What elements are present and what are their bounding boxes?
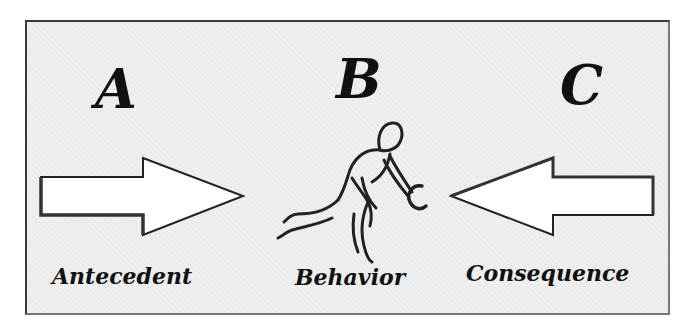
caption-antecedent: Antecedent [52, 265, 192, 287]
caption-consequence: Consequence [466, 262, 629, 284]
arrow-right-icon [38, 155, 268, 245]
letter-b: B [336, 52, 382, 106]
arrow-left-icon [448, 155, 678, 245]
caption-behavior: Behavior [295, 266, 405, 288]
letter-a: A [95, 62, 137, 116]
person-bowling-icon [272, 118, 432, 268]
letter-c: C [560, 58, 603, 112]
